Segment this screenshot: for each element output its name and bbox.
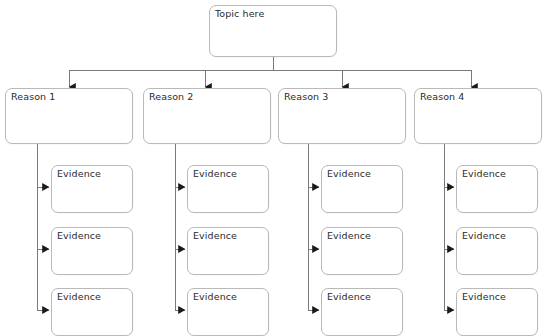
evidence-box-label: Evidence	[193, 291, 237, 303]
evidence-box-label: Evidence	[57, 168, 101, 180]
reason-box-label: Reason 1	[11, 91, 56, 103]
evidence-box-label: Evidence	[327, 168, 371, 180]
topic-box[interactable]: Topic here	[209, 5, 337, 57]
evidence-box-r3-2[interactable]: Evidence	[321, 227, 403, 275]
evidence-box-r4-1[interactable]: Evidence	[456, 165, 538, 213]
evidence-box-r1-3[interactable]: Evidence	[51, 288, 133, 336]
evidence-box-r2-1[interactable]: Evidence	[187, 165, 269, 213]
evidence-box-r2-3[interactable]: Evidence	[187, 288, 269, 336]
reason-box-3[interactable]: Reason 3	[278, 88, 406, 144]
evidence-box-r4-2[interactable]: Evidence	[456, 227, 538, 275]
evidence-box-label: Evidence	[193, 230, 237, 242]
reason-box-4[interactable]: Reason 4	[414, 88, 542, 144]
evidence-box-r4-3[interactable]: Evidence	[456, 288, 538, 336]
evidence-box-r3-3[interactable]: Evidence	[321, 288, 403, 336]
evidence-box-label: Evidence	[327, 291, 371, 303]
evidence-box-r2-2[interactable]: Evidence	[187, 227, 269, 275]
topic-box-label: Topic here	[215, 8, 264, 20]
evidence-box-label: Evidence	[327, 230, 371, 242]
evidence-box-label: Evidence	[462, 291, 506, 303]
evidence-box-r1-2[interactable]: Evidence	[51, 227, 133, 275]
evidence-box-label: Evidence	[193, 168, 237, 180]
diagram-canvas: Topic here Reason 1Reason 2Reason 3Reaso…	[0, 0, 543, 336]
reason-box-label: Reason 4	[420, 91, 465, 103]
reason-box-1[interactable]: Reason 1	[5, 88, 133, 144]
evidence-box-r1-1[interactable]: Evidence	[51, 165, 133, 213]
evidence-box-label: Evidence	[462, 230, 506, 242]
reason-box-label: Reason 2	[149, 91, 194, 103]
reason-box-2[interactable]: Reason 2	[143, 88, 271, 144]
evidence-box-label: Evidence	[462, 168, 506, 180]
evidence-box-label: Evidence	[57, 291, 101, 303]
evidence-box-r3-1[interactable]: Evidence	[321, 165, 403, 213]
reason-box-label: Reason 3	[284, 91, 329, 103]
topic-to-reasons-connectors	[69, 57, 471, 87]
evidence-box-label: Evidence	[57, 230, 101, 242]
